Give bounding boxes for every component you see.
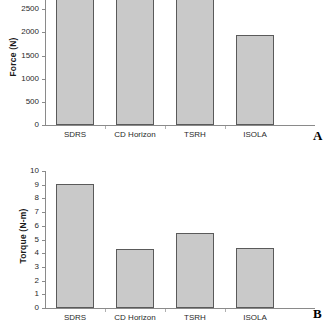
chart-a-y-axis — [45, 0, 46, 125]
chart-b-plot-area: 012345678910SDRSCD HorizonTSRHISOLA — [45, 171, 285, 308]
y-tick-mark — [42, 212, 45, 213]
y-tick-label: 8 — [5, 194, 39, 202]
y-tick-label: 3 — [5, 263, 39, 271]
x-category-label: CD Horizon — [105, 131, 165, 139]
x-category-label: ISOLA — [225, 131, 285, 139]
chart-b-y-axis — [45, 171, 46, 308]
x-category-label: TSRH — [165, 131, 225, 139]
y-tick-mark — [42, 240, 45, 241]
y-tick-mark — [42, 102, 45, 103]
y-tick-mark — [42, 79, 45, 80]
y-tick-label: 1500 — [5, 52, 39, 60]
x-category-label: CD Horizon — [105, 314, 165, 322]
x-tick-mark — [105, 126, 106, 129]
y-tick-label: 7 — [5, 208, 39, 216]
y-tick-mark — [42, 198, 45, 199]
y-tick-mark — [42, 253, 45, 254]
y-tick-label: 500 — [5, 98, 39, 106]
y-tick-mark — [42, 294, 45, 295]
y-tick-label: 2500 — [5, 5, 39, 13]
x-tick-mark — [225, 309, 226, 312]
y-tick-label: 1000 — [5, 75, 39, 83]
y-tick-mark — [42, 56, 45, 57]
bar-isola — [236, 35, 274, 125]
y-tick-label: 1 — [5, 290, 39, 298]
y-tick-label: 9 — [5, 181, 39, 189]
chart-a-plot-area: 050010001500200025003000SDRSCD HorizonTS… — [45, 0, 285, 125]
y-tick-label: 6 — [5, 222, 39, 230]
y-tick-mark — [42, 267, 45, 268]
y-tick-mark — [42, 9, 45, 10]
bar-cd-horizon — [116, 0, 154, 125]
bar-sdrs — [56, 0, 94, 125]
y-tick-label: 2 — [5, 277, 39, 285]
y-tick-label: 2000 — [5, 28, 39, 36]
bar-tsrh — [176, 233, 214, 308]
bar-isola — [236, 248, 274, 308]
y-tick-label: 5 — [5, 236, 39, 244]
y-tick-mark — [42, 226, 45, 227]
y-tick-mark — [42, 308, 45, 309]
x-tick-mark — [165, 309, 166, 312]
x-category-label: SDRS — [45, 314, 105, 322]
y-tick-label: 10 — [5, 167, 39, 175]
x-category-label: TSRH — [165, 314, 225, 322]
y-tick-mark — [42, 281, 45, 282]
panel-letter-b: B — [313, 306, 322, 322]
y-tick-label: 0 — [5, 121, 39, 129]
x-category-label: SDRS — [45, 131, 105, 139]
y-tick-label: 0 — [5, 304, 39, 312]
y-tick-mark — [42, 125, 45, 126]
bar-tsrh — [176, 0, 214, 125]
chart-panel-a: Force (N) 050010001500200025003000SDRSCD… — [0, 0, 335, 166]
x-category-label: ISOLA — [225, 314, 285, 322]
y-tick-mark — [42, 185, 45, 186]
chart-b-x-axis — [45, 308, 315, 309]
y-tick-label: 4 — [5, 249, 39, 257]
bar-sdrs — [56, 184, 94, 308]
bar-cd-horizon — [116, 249, 154, 308]
chart-panel-b: Torque (N-m) 012345678910SDRSCD HorizonT… — [0, 166, 335, 332]
x-tick-mark — [105, 309, 106, 312]
x-tick-mark — [225, 126, 226, 129]
y-tick-mark — [42, 32, 45, 33]
x-tick-mark — [165, 126, 166, 129]
chart-a-x-axis — [45, 125, 315, 126]
y-tick-mark — [42, 171, 45, 172]
panel-letter-a: A — [313, 128, 322, 144]
